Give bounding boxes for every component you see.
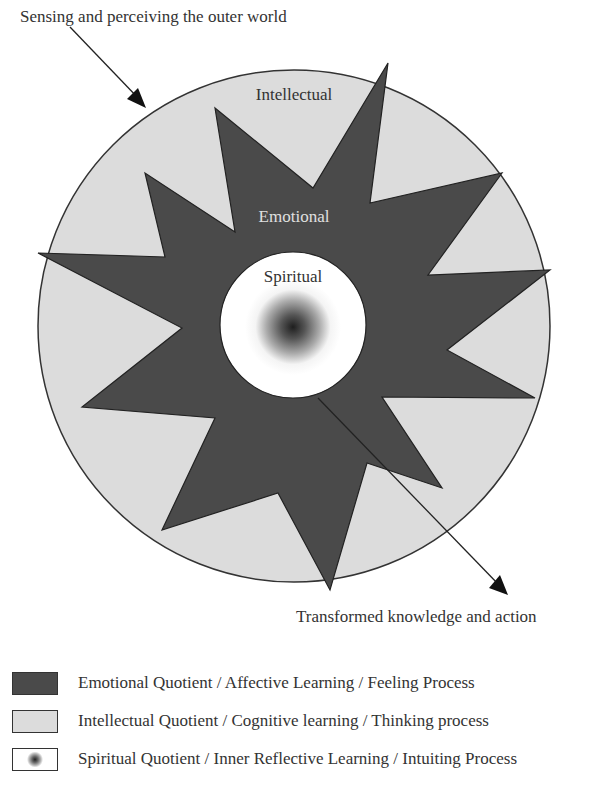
legend-item-intellectual: Intellectual Quotient / Cognitive learni… [12,702,517,740]
emotional-swatch-icon [12,672,58,695]
legend-label: Emotional Quotient / Affective Learning … [78,673,475,693]
spiritual-label: Spiritual [264,267,323,286]
emotional-label: Emotional [259,207,330,226]
spiritual-swatch-icon [12,748,58,771]
output-arrow-label: Transformed knowledge and action [296,607,537,626]
legend-label: Spiritual Quotient / Inner Reflective Le… [78,749,517,769]
legend-label: Intellectual Quotient / Cognitive learni… [78,711,489,731]
intellectual-swatch-icon [12,710,58,733]
input-arrowhead-icon [127,88,146,108]
legend-item-emotional: Emotional Quotient / Affective Learning … [12,664,517,702]
legend: Emotional Quotient / Affective Learning … [12,664,517,778]
spiritual-core-gradient [245,279,341,375]
input-arrow-line [70,27,140,100]
quotient-diagram: Sensing and perceiving the outer world I… [0,0,600,660]
legend-item-spiritual: Spiritual Quotient / Inner Reflective Le… [12,740,517,778]
intellectual-label: Intellectual [256,85,333,104]
input-arrow-label: Sensing and perceiving the outer world [20,7,287,26]
